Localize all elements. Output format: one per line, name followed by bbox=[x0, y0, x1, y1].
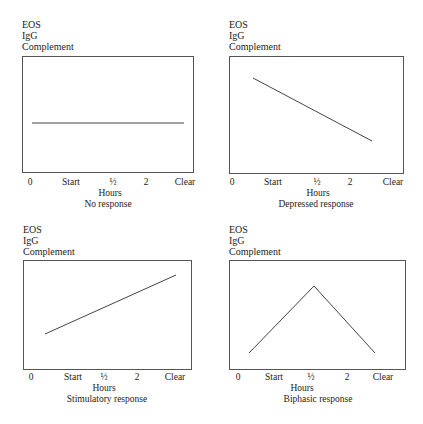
x-tick-2: 2 bbox=[345, 372, 350, 382]
x-tick-0: 0 bbox=[236, 372, 241, 382]
x-tick-clear: Clear bbox=[373, 372, 394, 382]
panel-caption: Biphasic response bbox=[284, 394, 353, 404]
response-line bbox=[0, 0, 423, 424]
x-tick-half: ½ bbox=[307, 372, 314, 382]
x-axis-title: Hours bbox=[290, 383, 313, 393]
x-tick-start: Start bbox=[265, 372, 283, 382]
